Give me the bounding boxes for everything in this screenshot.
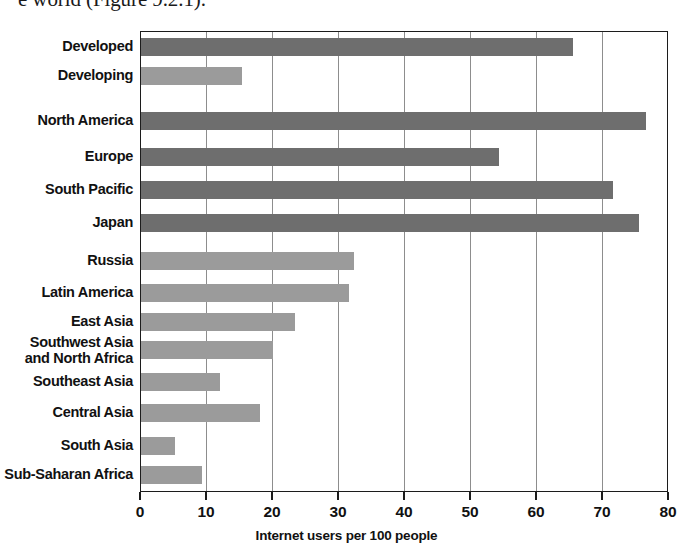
- x-tick-label-20: 20: [263, 503, 280, 521]
- bar-label: North America: [38, 113, 133, 129]
- x-tick-label-80: 80: [659, 503, 676, 521]
- bar-label: Latin America: [42, 285, 133, 301]
- x-tick-80: [667, 492, 669, 500]
- bar: [141, 214, 639, 232]
- bar: [141, 148, 499, 166]
- bar: [141, 466, 202, 484]
- x-tick-40: [403, 492, 405, 500]
- x-tick-50: [469, 492, 471, 500]
- bar-label: Southwest Asia and North Africa: [25, 335, 133, 366]
- bar-label: Developed: [62, 39, 133, 55]
- bar: [141, 181, 613, 199]
- bar-label: Central Asia: [53, 405, 133, 421]
- bar-label: Southeast Asia: [33, 374, 133, 390]
- x-tick-20: [271, 492, 273, 500]
- x-tick-70: [601, 492, 603, 500]
- bar: [141, 252, 354, 270]
- bar-label: Europe: [85, 149, 133, 165]
- bar: [141, 284, 349, 302]
- x-tick-label-30: 30: [329, 503, 346, 521]
- x-tick-label-40: 40: [395, 503, 412, 521]
- x-axis-title: Internet users per 100 people: [0, 528, 693, 543]
- x-tick-label-60: 60: [527, 503, 544, 521]
- bar: [141, 112, 646, 130]
- x-tick-label-70: 70: [593, 503, 610, 521]
- bar: [141, 38, 573, 56]
- bar-label: Japan: [93, 215, 133, 231]
- bar-label: Sub-Saharan Africa: [4, 467, 133, 483]
- bar: [141, 341, 273, 359]
- x-axis-tick-labels: 01020304050607080: [0, 503, 693, 525]
- x-tick-label-10: 10: [197, 503, 214, 521]
- bar-label: South Asia: [61, 438, 133, 454]
- x-tick-30: [337, 492, 339, 500]
- bar-label: Russia: [87, 253, 133, 269]
- bar: [141, 437, 175, 455]
- bar-label: East Asia: [71, 314, 133, 330]
- x-axis-ticks: [0, 492, 693, 502]
- x-tick-60: [535, 492, 537, 500]
- bar-rows: DevelopedDevelopingNorth AmericaEuropeSo…: [0, 31, 693, 492]
- bar: [141, 404, 260, 422]
- bar-label: Developing: [58, 68, 133, 84]
- bar-label: South Pacific: [45, 182, 133, 198]
- x-tick-label-0: 0: [136, 503, 145, 521]
- x-tick-label-50: 50: [461, 503, 478, 521]
- x-tick-0: [139, 492, 141, 500]
- bar: [141, 313, 295, 331]
- bar: [141, 373, 220, 391]
- x-tick-10: [205, 492, 207, 500]
- bar: [141, 67, 242, 85]
- bar-chart-figure: DevelopedDevelopingNorth AmericaEuropeSo…: [0, 0, 693, 554]
